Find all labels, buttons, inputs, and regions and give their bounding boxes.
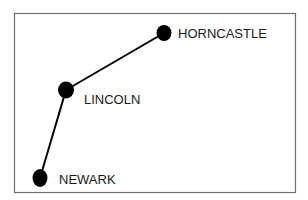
lincoln-label: LINCOLN (84, 92, 140, 107)
horncastle-marker-icon (157, 25, 172, 41)
node-newark: NEWARK (33, 169, 116, 187)
lincoln-marker-icon (58, 82, 74, 99)
newark-label: NEWARK (59, 172, 116, 187)
newark-marker-icon (33, 169, 48, 187)
horncastle-label: HORNCASTLE (178, 26, 267, 41)
route-diagram: HORNCASTLE LINCOLN NEWARK (0, 0, 308, 200)
